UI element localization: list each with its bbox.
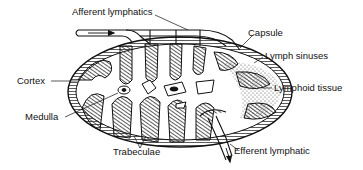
label-efferent-lymphatic: Efferent lymphatic bbox=[234, 145, 310, 156]
label-cortex: Cortex bbox=[17, 75, 45, 86]
label-lymphoid-tissue: Lymphoid tissue bbox=[274, 82, 342, 93]
label-trabeculae: Trabeculae bbox=[113, 146, 160, 157]
label-afferent-lymphatics: Afferent lymphatics bbox=[72, 6, 153, 17]
label-capsule: Capsule bbox=[248, 27, 283, 38]
label-medulla: Medulla bbox=[25, 111, 58, 122]
label-lymph-sinuses: Lymph sinuses bbox=[265, 50, 328, 61]
